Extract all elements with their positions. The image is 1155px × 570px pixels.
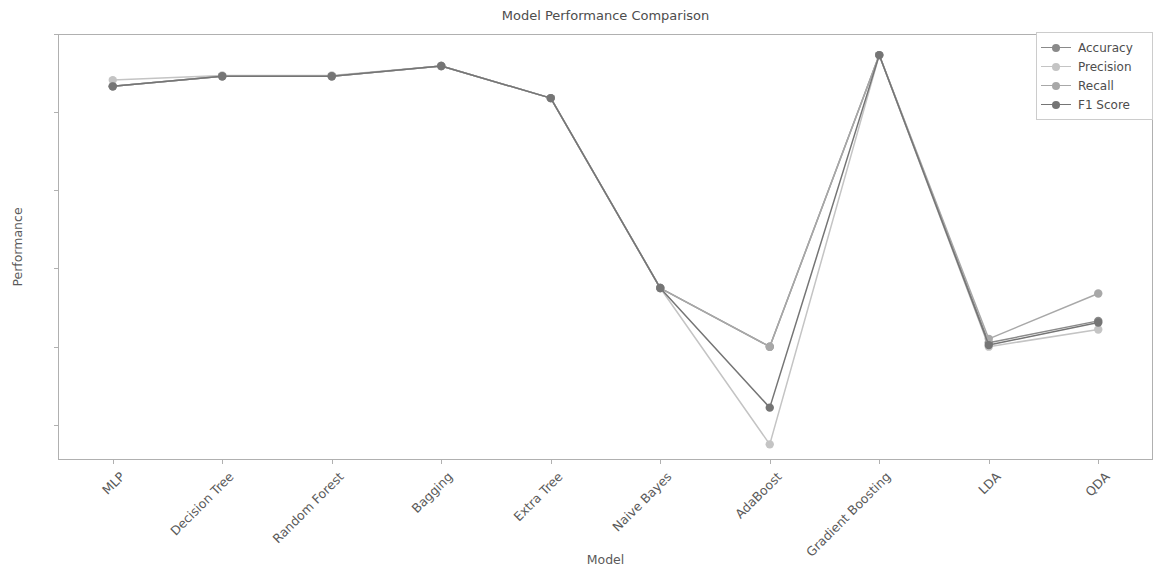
y-axis-label: Performance — [10, 207, 25, 286]
x-tick-label: QDA — [1083, 469, 1113, 499]
x-tick-label: MLP — [99, 469, 127, 497]
series-f1-score — [109, 51, 1103, 412]
series-line — [113, 55, 1099, 444]
chart-plot-area — [58, 34, 1153, 460]
x-tick-label: Random Forest — [269, 469, 346, 546]
legend-item[interactable]: Recall — [1041, 76, 1146, 95]
series-line — [113, 55, 1099, 347]
data-point-marker — [1094, 289, 1102, 297]
series-accuracy — [109, 51, 1103, 351]
legend-label: F1 Score — [1078, 98, 1130, 112]
x-tick-mark — [879, 460, 880, 464]
x-tick-mark — [551, 460, 552, 464]
legend-label: Precision — [1078, 60, 1132, 74]
x-tick-mark — [332, 460, 333, 464]
x-tick-mark — [113, 460, 114, 464]
x-tick-mark — [770, 460, 771, 464]
legend-label: Recall — [1078, 79, 1114, 93]
x-tick-label: Gradient Boosting — [803, 469, 894, 560]
x-axis-ticks: MLPDecision TreeRandom ForestBaggingExtr… — [58, 460, 1153, 560]
data-point-marker — [328, 72, 336, 80]
legend-item[interactable]: F1 Score — [1041, 95, 1146, 114]
series-line — [113, 55, 1099, 347]
legend-swatch-icon — [1041, 99, 1071, 111]
chart-legend: AccuracyPrecisionRecallF1 Score — [1036, 32, 1153, 120]
x-tick-label: Bagging — [409, 469, 456, 516]
data-point-marker — [437, 62, 445, 70]
data-point-marker — [109, 82, 117, 90]
data-point-marker — [875, 51, 883, 59]
data-point-marker — [766, 342, 774, 350]
x-tick-label: Decision Tree — [167, 469, 236, 538]
data-point-marker — [766, 403, 774, 411]
data-point-marker — [1094, 318, 1102, 326]
x-tick-mark — [441, 460, 442, 464]
x-tick-mark — [1098, 460, 1099, 464]
legend-label: Accuracy — [1078, 41, 1133, 55]
legend-swatch-icon — [1041, 61, 1071, 73]
data-point-marker — [985, 341, 993, 349]
data-point-marker — [218, 72, 226, 80]
x-tick-mark — [222, 460, 223, 464]
legend-swatch-icon — [1041, 42, 1071, 54]
x-tick-label: LDA — [975, 469, 1003, 497]
x-tick-label: AdaBoost — [732, 469, 784, 521]
legend-item[interactable]: Precision — [1041, 57, 1146, 76]
chart-title: Model Performance Comparison — [58, 8, 1153, 23]
data-point-marker — [547, 94, 555, 102]
y-axis-label-wrapper: Performance — [22, 34, 23, 460]
series-line — [113, 55, 1099, 408]
data-point-marker — [656, 284, 664, 292]
legend-item[interactable]: Accuracy — [1041, 38, 1146, 57]
x-tick-label: Extra Tree — [510, 469, 565, 524]
legend-swatch-icon — [1041, 80, 1071, 92]
x-tick-label: Naive Bayes — [610, 469, 675, 534]
x-tick-mark — [660, 460, 661, 464]
x-tick-mark — [989, 460, 990, 464]
x-axis-label: Model — [58, 552, 1153, 567]
data-point-marker — [766, 440, 774, 448]
chart-figure: Model Performance Comparison Performance… — [0, 0, 1155, 570]
series-recall — [109, 51, 1103, 351]
